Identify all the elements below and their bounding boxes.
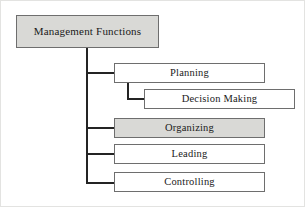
connector-trunk-to-leading: [86, 153, 115, 155]
node-planning[interactable]: Planning: [114, 63, 265, 83]
connector-trunk-to-controlling: [86, 182, 115, 184]
node-management-functions[interactable]: Management Functions: [16, 15, 159, 48]
management-functions-diagram: Management Functions Planning Decision M…: [0, 0, 305, 207]
node-label-planning: Planning: [170, 67, 209, 78]
node-label-controlling: Controlling: [164, 176, 215, 187]
connector-trunk-to-planning: [86, 72, 115, 74]
connector-root-trunk: [86, 48, 88, 184]
node-leading[interactable]: Leading: [114, 144, 265, 164]
node-label-organizing: Organizing: [165, 122, 214, 133]
connector-trunk-to-organizing: [86, 127, 115, 129]
node-organizing[interactable]: Organizing: [114, 118, 265, 138]
node-label-decision-making: Decision Making: [182, 93, 258, 104]
node-label-leading: Leading: [172, 148, 208, 159]
node-decision-making[interactable]: Decision Making: [144, 89, 295, 109]
node-label-management-functions: Management Functions: [34, 26, 142, 37]
node-controlling[interactable]: Controlling: [114, 172, 265, 192]
connector-planning-to-decision-horizontal: [127, 98, 145, 100]
